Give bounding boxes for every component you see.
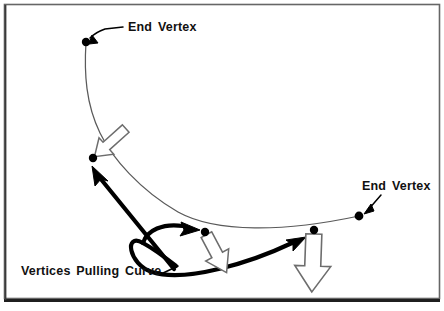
label-end-vertex-right: End Vertex (362, 180, 431, 193)
vertex-pulling-middle[interactable] (201, 228, 209, 236)
label-end-vertex-top: End Vertex (128, 21, 197, 34)
vertex-pulling-left[interactable] (89, 154, 97, 162)
annotation-arrowhead-top (89, 35, 98, 44)
label-vertices-pulling-curve: Vertices Pulling Curve (21, 265, 161, 278)
figure-canvas: End Vertex End Vertex Vertices Pulling C… (0, 0, 444, 311)
vertex-end-right[interactable] (355, 212, 364, 221)
leader-diagonal-left (100, 178, 174, 269)
annotation-leader-top (90, 27, 123, 38)
vertex-pulling-right[interactable] (310, 226, 318, 234)
vertex-end-top[interactable] (82, 38, 90, 46)
leader-arrowhead-middle (180, 222, 200, 236)
